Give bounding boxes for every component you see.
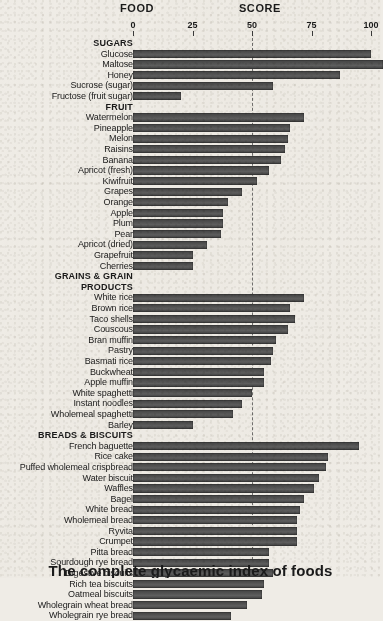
table-row: Grapes	[0, 186, 381, 197]
table-row: Brown rice	[0, 303, 381, 314]
bar	[133, 166, 269, 174]
table-row: Puffed wholemeal crispbread	[0, 462, 381, 473]
bar	[133, 145, 285, 153]
food-label: Basmati rice	[1, 356, 133, 367]
bar	[133, 294, 304, 302]
table-row: Taco shells	[0, 314, 381, 325]
bar	[133, 421, 193, 429]
food-label: Grapes	[1, 186, 133, 197]
food-label: Wholemeal spaghetti	[1, 409, 133, 420]
table-row: Basmati rice	[0, 356, 381, 367]
food-label: Water biscuit	[1, 473, 133, 484]
food-label: Taco shells	[1, 314, 133, 325]
bar	[133, 92, 181, 100]
bar	[133, 50, 371, 58]
table-row: Instant noodles	[0, 398, 381, 409]
section-header-row: PRODUCTS	[0, 282, 381, 293]
bars-plot-area: SUGARSGlucoseMaltoseHoneySucrose (sugar)…	[0, 38, 381, 562]
food-label: Wholegrain wheat bread	[1, 600, 133, 611]
food-label: Raisins	[1, 144, 133, 155]
food-label: Pastry	[1, 345, 133, 356]
table-row: Honey	[0, 70, 381, 81]
food-label: White rice	[1, 292, 133, 303]
table-row: Cherries	[0, 261, 381, 272]
bar	[133, 82, 273, 90]
bar	[133, 251, 193, 259]
bar	[133, 188, 242, 196]
axis-tick-0	[133, 31, 134, 36]
food-label: French baguette	[1, 441, 133, 452]
food-label: Buckwheat	[1, 367, 133, 378]
axis-tick-25	[193, 31, 194, 36]
bar	[133, 548, 269, 556]
table-row: Apple muffin	[0, 377, 381, 388]
bar	[133, 368, 264, 376]
bar	[133, 325, 288, 333]
food-label: Apricot (dried)	[1, 239, 133, 250]
bar	[133, 336, 276, 344]
table-row: Wholegrain wheat bread	[0, 600, 381, 611]
bar	[133, 177, 257, 185]
bar	[133, 612, 231, 620]
bar	[133, 484, 314, 492]
table-row: Apple	[0, 208, 381, 219]
chart-caption: The complete glycaemic index of foods	[0, 562, 381, 578]
score-axis: 0255075100	[0, 20, 381, 36]
bar	[133, 453, 328, 461]
section-label: GRAINS & GRAIN	[1, 271, 133, 282]
section-label: FRUIT	[1, 102, 133, 113]
food-label: Crumpet	[1, 536, 133, 547]
bar	[133, 113, 304, 121]
food-label: White bread	[1, 504, 133, 515]
table-row: Pear	[0, 229, 381, 240]
food-label: Melon	[1, 133, 133, 144]
bar	[133, 474, 319, 482]
bar	[133, 527, 297, 535]
table-row: Pineapple	[0, 123, 381, 134]
food-label: Orange	[1, 197, 133, 208]
food-label: Rice cake	[1, 451, 133, 462]
food-label: Maltose	[1, 59, 133, 70]
bar	[133, 400, 242, 408]
food-label: Grapefruit	[1, 250, 133, 261]
table-row: Plum	[0, 218, 381, 229]
table-row: Fructose (fruit sugar)	[0, 91, 381, 102]
section-header-row: SUGARS	[0, 38, 381, 49]
section-header-row: FRUIT	[0, 102, 381, 113]
food-label: Glucose	[1, 49, 133, 60]
bar	[133, 580, 264, 588]
food-label: White spaghetti	[1, 388, 133, 399]
food-label: Honey	[1, 70, 133, 81]
axis-label-50: 50	[247, 20, 257, 30]
bar	[133, 506, 300, 514]
table-row: Wholemeal bread	[0, 515, 381, 526]
table-row: Bagel	[0, 494, 381, 505]
bar	[133, 537, 297, 545]
bar	[133, 389, 252, 397]
table-row: Glucose	[0, 49, 381, 60]
table-row: Maltose	[0, 59, 381, 70]
column-headers: FOOD SCORE	[0, 2, 381, 18]
bar	[133, 219, 223, 227]
bar	[133, 410, 233, 418]
food-label: Watermelon	[1, 112, 133, 123]
bar	[133, 357, 271, 365]
table-row: Crumpet	[0, 536, 381, 547]
table-row: Pastry	[0, 345, 381, 356]
bar	[133, 156, 281, 164]
bar	[133, 209, 223, 217]
table-row: Raisins	[0, 144, 381, 155]
axis-tick-75	[312, 31, 313, 36]
food-label: Fructose (fruit sugar)	[1, 91, 133, 102]
bar	[133, 241, 207, 249]
bar	[133, 71, 340, 79]
bar	[133, 198, 228, 206]
food-label: Pitta bread	[1, 547, 133, 558]
bar	[133, 495, 304, 503]
axis-label-0: 0	[130, 20, 135, 30]
food-label: Couscous	[1, 324, 133, 335]
axis-tick-50	[252, 31, 253, 36]
food-label: Ryvita	[1, 526, 133, 537]
table-row: Oatmeal biscuits	[0, 589, 381, 600]
